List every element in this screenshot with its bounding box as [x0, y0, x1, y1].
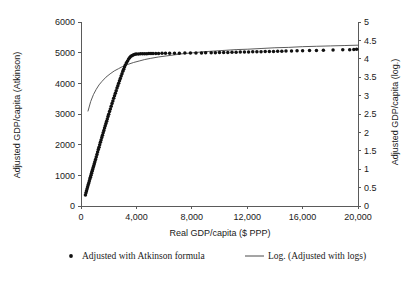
scatter-point	[239, 50, 243, 54]
x-tick-label: 0	[78, 212, 83, 222]
scatter-point	[263, 50, 267, 54]
scatter-point	[280, 49, 284, 53]
scatter-point	[168, 52, 172, 56]
scatter-point	[157, 52, 161, 56]
log-trend-line	[88, 45, 358, 111]
scatter-point	[322, 49, 326, 53]
right-tick-label: 3.5	[364, 72, 377, 82]
scatter-point	[218, 51, 222, 55]
legend: Adjusted with Atkinson formula Log. (Adj…	[69, 251, 366, 262]
right-tick-label: 0	[364, 201, 369, 211]
x-tick-label: 16,000	[289, 212, 317, 222]
legend-label-line: Log. (Adjusted with logs)	[268, 251, 366, 262]
right-tick-label: 4	[364, 54, 369, 64]
right-tick-label: 3	[364, 91, 369, 101]
scatter-points-group	[84, 48, 359, 197]
right-tick-label: 1	[364, 164, 369, 174]
left-tick-label: 4000	[55, 79, 75, 89]
left-tick-label: 6000	[55, 17, 75, 27]
scatter-point	[214, 51, 218, 55]
x-tick-label: 12,000	[233, 212, 261, 222]
scatter-point	[200, 51, 204, 55]
scatter-point	[247, 50, 251, 54]
scatter-point	[160, 52, 164, 56]
y-axis-title-line1: Adjusted GDP/capita (Atkinson)	[12, 52, 22, 179]
scatter-point	[355, 48, 359, 52]
x-tick-label: 8,000	[181, 212, 204, 222]
scatter-point	[234, 50, 238, 54]
x-axis-ticks: 04,0008,00012,00016,00020,000	[78, 206, 371, 222]
scatter-point	[341, 48, 345, 52]
scatter-point	[243, 50, 247, 54]
left-tick-label: 0	[70, 201, 75, 211]
right-tick-label: 1.5	[364, 146, 377, 156]
scatter-point	[315, 49, 319, 53]
right-tick-label: 2	[364, 128, 369, 138]
scatter-point	[209, 51, 213, 55]
scatter-point	[348, 48, 352, 52]
caption-fragment	[0, 271, 414, 284]
scatter-point	[268, 50, 272, 54]
scatter-point	[230, 51, 234, 55]
scatter-point	[301, 49, 305, 53]
scatter-point	[308, 49, 312, 53]
scatter-chart: 0100020003000400050006000 00.511.522.533…	[0, 0, 414, 284]
scatter-point	[251, 50, 255, 54]
scatter-point	[164, 52, 168, 56]
scatter-point	[290, 49, 294, 53]
x-axis-title: Real GDP/capita ($ PPP)	[169, 228, 270, 238]
x-tick-label: 4,000	[125, 212, 148, 222]
left-tick-label: 2000	[55, 140, 75, 150]
scatter-point	[189, 51, 193, 55]
right-tick-label: 2.5	[364, 109, 377, 119]
chart-container: 0100020003000400050006000 00.511.522.533…	[0, 0, 414, 284]
y2-axis-title: Adjusted GDP/capita (log.)	[390, 59, 400, 166]
scatter-point	[295, 49, 299, 53]
scatter-point	[173, 51, 177, 55]
scatter-point	[272, 50, 276, 54]
legend-marker-scatter-icon	[69, 254, 73, 258]
right-axis-ticks: 00.511.522.533.544.55	[358, 17, 377, 211]
scatter-point	[259, 50, 263, 54]
scatter-point	[331, 48, 335, 52]
scatter-point	[226, 51, 230, 55]
left-tick-label: 3000	[55, 109, 75, 119]
scatter-point	[183, 51, 187, 55]
scatter-point	[284, 49, 288, 53]
scatter-point	[255, 50, 259, 54]
x-tick-label: 20,000	[344, 212, 372, 222]
scatter-point	[222, 51, 226, 55]
left-axis-ticks: 0100020003000400050006000	[55, 17, 81, 211]
scatter-point	[204, 51, 208, 55]
left-tick-label: 5000	[55, 48, 75, 58]
left-tick-label: 1000	[55, 171, 75, 181]
legend-label-scatter: Adjusted with Atkinson formula	[82, 251, 205, 261]
right-tick-label: 0.5	[364, 183, 377, 193]
right-tick-label: 4.5	[364, 36, 377, 46]
scatter-point	[276, 50, 280, 54]
scatter-point	[178, 51, 182, 55]
right-tick-label: 5	[364, 17, 369, 27]
scatter-point	[194, 51, 198, 55]
